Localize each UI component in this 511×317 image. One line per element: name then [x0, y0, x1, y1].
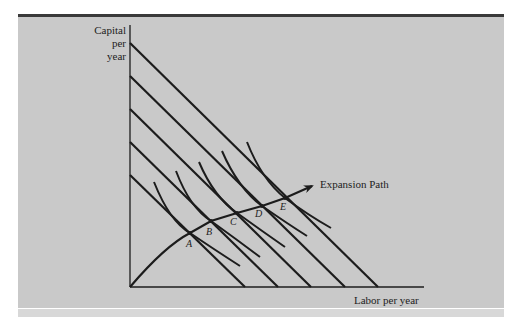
- expansion-path-diagram: [0, 0, 511, 317]
- y-axis-label-line2: per: [78, 37, 126, 50]
- point-label-d: D: [255, 208, 262, 219]
- isoquant-a: [154, 182, 240, 266]
- point-label-e: E: [280, 201, 286, 212]
- isocost-line-4: [130, 76, 345, 287]
- y-axis-label-line3: year: [78, 50, 126, 63]
- isocost-lines: [130, 43, 378, 287]
- x-axis-label: Labor per year: [354, 294, 419, 307]
- y-axis-label-line1: Capital: [78, 24, 126, 37]
- point-label-a: A: [186, 238, 192, 249]
- point-label-b: B: [206, 226, 212, 237]
- y-axis-label: Capital per year: [78, 24, 126, 63]
- point-label-c: C: [230, 216, 237, 227]
- expansion-path-label: Expansion Path: [320, 178, 389, 191]
- isocost-line-5: [130, 43, 378, 287]
